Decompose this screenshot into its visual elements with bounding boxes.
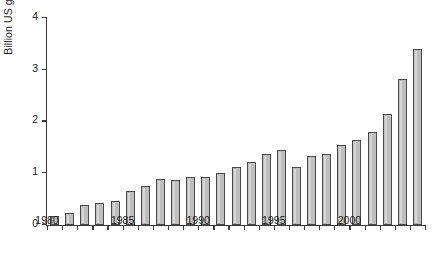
bar-highlight	[339, 147, 341, 223]
y-axis-tick: 3	[42, 69, 47, 70]
x-axis-tick-label: 1985	[103, 214, 143, 226]
bar-highlight	[249, 164, 251, 223]
x-axis-tick	[244, 225, 245, 230]
x-axis-tick-label: 1990	[178, 214, 218, 226]
x-axis-tick	[425, 225, 426, 230]
bar	[368, 132, 377, 225]
bar-highlight	[309, 158, 311, 223]
bar-highlight	[173, 182, 175, 223]
bar	[413, 49, 422, 225]
y-axis-tick: 1	[42, 172, 47, 173]
bar-highlight	[82, 207, 84, 223]
bar-highlight	[67, 215, 69, 223]
x-axis-tick	[380, 225, 381, 230]
x-axis-tick	[228, 225, 229, 230]
x-axis-tick	[410, 225, 411, 230]
x-axis-tick	[168, 225, 169, 230]
bar-highlight	[400, 81, 402, 223]
x-axis-tick	[77, 225, 78, 230]
y-axis-tick: 2	[42, 120, 47, 121]
x-axis-tick-label: 2000	[329, 214, 369, 226]
y-axis-tick-label: 1	[32, 165, 38, 177]
y-axis-line	[46, 18, 47, 225]
bar-highlight	[324, 156, 326, 223]
bar	[307, 156, 316, 225]
plot-area: 01234	[47, 18, 425, 225]
x-axis-tick	[395, 225, 396, 230]
y-axis-label: Billion US gallons	[2, 0, 22, 142]
x-axis-tick-label: 1995	[254, 214, 294, 226]
x-axis-tick-label: 1980	[27, 214, 67, 226]
bar-highlight	[234, 169, 236, 223]
y-axis-tick: 4	[42, 17, 47, 18]
x-axis-tick	[319, 225, 320, 230]
bar-highlight	[97, 205, 99, 223]
y-axis-tick-label: 3	[32, 62, 38, 74]
y-axis-tick-label: 4	[32, 10, 38, 22]
bar	[156, 179, 165, 225]
bar-highlight	[218, 175, 220, 223]
bar	[383, 114, 392, 225]
bar	[80, 205, 89, 225]
bar-highlight	[294, 169, 296, 223]
x-axis-tick	[153, 225, 154, 230]
bar-highlight	[370, 134, 372, 223]
x-axis-tick	[304, 225, 305, 230]
bar-highlight	[158, 181, 160, 223]
bar-highlight	[415, 51, 417, 223]
y-axis-tick-label: 2	[32, 113, 38, 125]
bar-highlight	[354, 142, 356, 223]
bar	[352, 140, 361, 225]
bar	[232, 167, 241, 225]
bar	[398, 79, 407, 225]
x-axis-tick	[92, 225, 93, 230]
bar-highlight	[143, 188, 145, 223]
bar-highlight	[279, 152, 281, 223]
bar-highlight	[264, 156, 266, 223]
bar-highlight	[385, 116, 387, 223]
bar-chart: Billion US gallons 01234 198019851990199…	[0, 0, 435, 258]
